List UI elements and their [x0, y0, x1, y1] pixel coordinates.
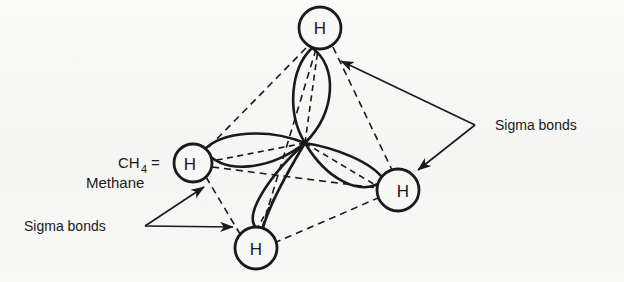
formula-block: CH 4 = Methane [86, 154, 160, 191]
tetrahedron-edges [206, 47, 392, 243]
atom-label-left: H [184, 155, 196, 174]
formula-equals: = [151, 154, 160, 171]
left-leader-to-left-h [145, 187, 204, 226]
right-leader-to-right-h [418, 125, 475, 170]
orbital-lobe-left [204, 133, 305, 166]
atom-label-bottom: H [250, 240, 262, 259]
edge-bottom-right [274, 198, 378, 243]
right-sigma-bonds-label: Sigma bonds [495, 117, 577, 133]
left-sigma-bonds-label: Sigma bonds [24, 218, 106, 234]
hydrogen-atoms [174, 7, 419, 269]
atom-label-top: H [314, 19, 326, 38]
right-callout-leaders [341, 61, 475, 170]
orbital-lobe-bottom [253, 143, 305, 231]
formula-molecule: CH [118, 154, 140, 171]
atom-label-right: H [397, 182, 409, 201]
molecule-name: Methane [86, 174, 144, 191]
methane-bonding-diagram: H H H H CH 4 = Methane Sigma bonds Sigma… [0, 0, 624, 282]
left-callout-leaders [145, 187, 233, 227]
right-leader-to-top-h [341, 61, 475, 125]
orbital-lobes [204, 48, 384, 231]
edge-left-bottom [206, 177, 240, 234]
left-leader-to-bottom-h [145, 226, 233, 227]
